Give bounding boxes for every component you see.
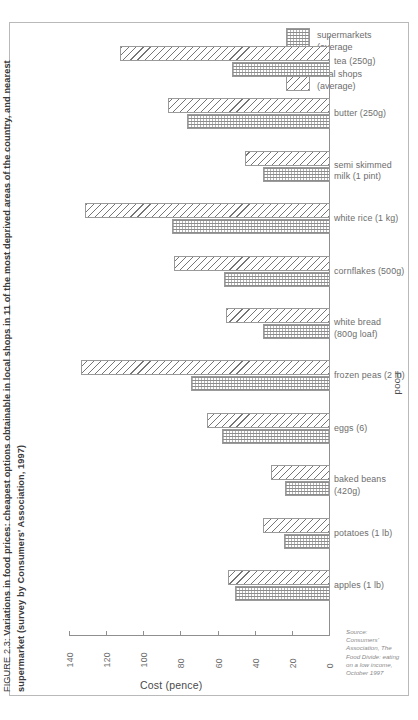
x-axis-tick-label: 40 [251, 658, 261, 668]
category-label: potatoes (1 lb) [334, 528, 392, 540]
x-axis-tick-label: 120 [102, 652, 112, 668]
x-axis-tick [329, 631, 330, 636]
bar-local-shops [81, 360, 330, 375]
bar-local-shops [245, 151, 330, 166]
bar-local-shops [85, 203, 330, 218]
bar-supermarkets [187, 114, 330, 129]
bar-supermarkets [284, 534, 330, 549]
x-axis-tick [255, 631, 256, 636]
x-axis-tick [143, 631, 144, 636]
x-axis-tick-label: 20 [288, 658, 298, 668]
category-label: cornflakes (500g) [334, 266, 404, 278]
plot-area: 140120100806040200 [68, 36, 330, 636]
bar-local-shops [168, 98, 330, 113]
category-label: white bread (800g loaf) [334, 317, 381, 340]
x-axis-tick-label: 0 [325, 663, 335, 668]
category-label: eggs (6) [334, 423, 367, 435]
x-axis-tick [106, 631, 107, 636]
category-label: white rice (1 kg) [334, 213, 398, 225]
x-axis-tick [218, 631, 219, 636]
category-label: tea (250g) [334, 56, 375, 68]
category-label: butter (250g) [334, 108, 386, 120]
bar-supermarkets [263, 167, 330, 182]
bar-supermarkets [235, 586, 330, 601]
figure-page: FIGURE 2.3: Variations in food prices: c… [0, 0, 418, 720]
bar-local-shops [228, 570, 330, 585]
category-label: semi skimmed milk (1 pint) [334, 160, 392, 183]
bar-supermarkets [172, 219, 330, 234]
bar-supermarkets [191, 376, 330, 391]
x-axis-tick [180, 631, 181, 636]
bar-supermarkets [263, 324, 330, 339]
bar-local-shops [226, 308, 330, 323]
source-note: Source: Consumers' Association, The Food… [346, 628, 408, 677]
x-axis-tick [292, 631, 293, 636]
bar-supermarkets [232, 62, 330, 77]
x-axis-title: Cost (pence) [140, 679, 203, 691]
x-axis-tick-label: 100 [139, 652, 149, 668]
x-axis-tick-label: 80 [176, 658, 186, 668]
x-axis-tick-label: 140 [65, 652, 75, 668]
bar-supermarkets [285, 481, 330, 496]
x-axis-tick [69, 631, 70, 636]
category-label: baked beans (420g) [334, 474, 386, 497]
category-label: frozen peas (2 lb) [334, 370, 405, 382]
x-axis-tick-label: 60 [214, 658, 224, 668]
bar-local-shops [207, 413, 330, 428]
bar-local-shops [174, 256, 330, 271]
bar-supermarkets [222, 429, 330, 444]
bar-local-shops [263, 518, 330, 533]
bar-local-shops [271, 465, 330, 480]
bar-local-shops [120, 46, 330, 61]
bar-supermarkets [224, 272, 330, 287]
category-label: apples (1 lb) [334, 580, 384, 592]
